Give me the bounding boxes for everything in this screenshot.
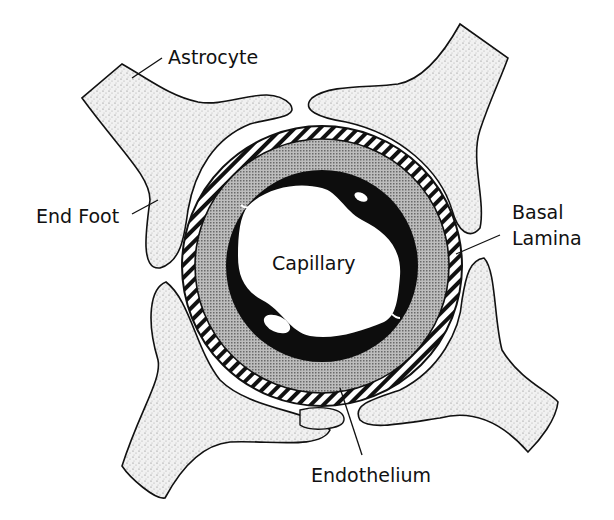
label-end-foot: End Foot bbox=[36, 205, 119, 227]
label-lamina: Lamina bbox=[512, 227, 582, 249]
astrocyte-foot-bottom bbox=[300, 408, 344, 429]
label-capillary: Capillary bbox=[272, 252, 356, 274]
label-basal: Basal bbox=[512, 201, 564, 223]
label-endothelium: Endothelium bbox=[311, 464, 431, 486]
leader-basal-lamina bbox=[456, 235, 500, 254]
leader-astrocyte bbox=[132, 58, 162, 78]
label-astrocyte: Astrocyte bbox=[168, 46, 258, 68]
capillary-diagram: Astrocyte End Foot Basal Lamina Capillar… bbox=[0, 0, 614, 520]
